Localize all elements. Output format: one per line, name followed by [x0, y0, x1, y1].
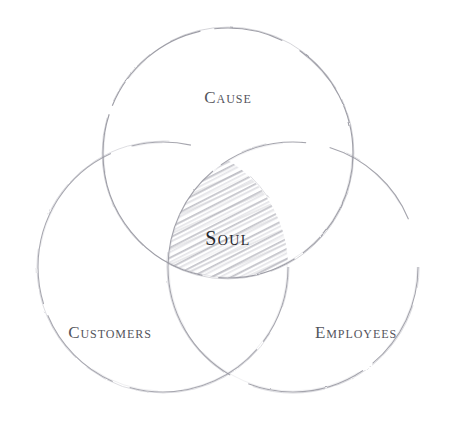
intersection-label-soul: Soul: [205, 227, 251, 249]
set-label-cause: Cause: [204, 88, 251, 107]
venn-diagram: Cause Customers Employees Soul: [0, 0, 456, 444]
soul-intersection-fill: [0, 0, 456, 444]
set-label-customers: Customers: [68, 323, 152, 342]
set-label-employees: Employees: [315, 323, 397, 342]
venn-diagram-canvas: Cause Customers Employees Soul: [0, 0, 456, 444]
